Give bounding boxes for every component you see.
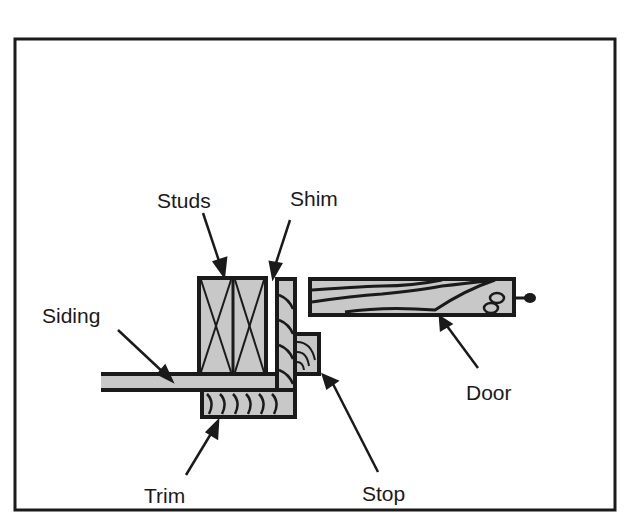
frame-border: [15, 39, 615, 510]
siding-arrow: [118, 330, 165, 374]
door-jamb-diagram: Studs Shim Siding Door Trim Stop: [0, 0, 629, 526]
shim-arrow: [275, 220, 290, 266]
door: [310, 279, 536, 315]
label-shim: Shim: [290, 187, 338, 210]
label-door: Door: [466, 381, 512, 404]
door-arrow: [447, 326, 478, 368]
trim-arrow: [186, 432, 212, 475]
label-siding: Siding: [42, 304, 100, 327]
siding: [101, 374, 280, 390]
stop: [295, 334, 319, 374]
trim: [202, 390, 295, 417]
studs: [199, 278, 266, 374]
label-stop: Stop: [362, 482, 405, 505]
stop-arrow: [333, 384, 378, 472]
studs-arrow: [203, 213, 220, 264]
label-studs: Studs: [157, 189, 211, 212]
label-trim: Trim: [144, 484, 185, 507]
